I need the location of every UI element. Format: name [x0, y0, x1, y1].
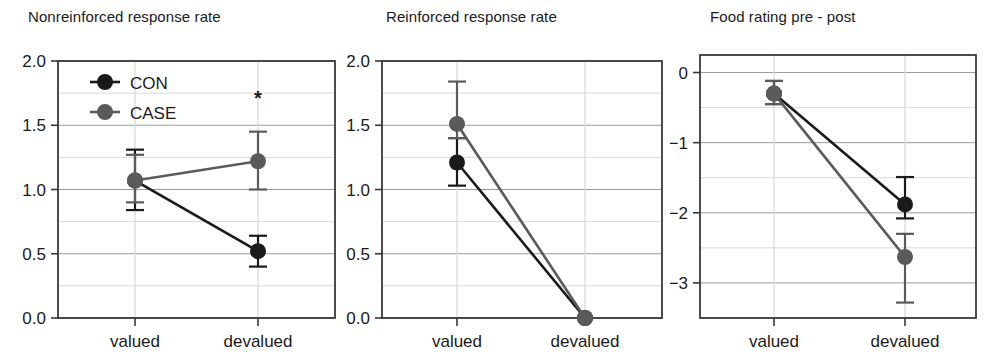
y-axis-tick-label: 1.0 — [22, 181, 46, 200]
y-axis-tick-label: −1 — [670, 134, 688, 153]
figure-container: Nonreinforced response rate 0.00.51.01.5… — [0, 0, 1006, 355]
legend-marker-dot — [97, 74, 113, 90]
y-axis-tick-label: 1.5 — [22, 116, 46, 135]
y-axis-tick-label: 0 — [679, 64, 688, 83]
y-axis-tick-label: 2.0 — [22, 52, 46, 71]
y-axis-tick-label: 2.0 — [346, 52, 370, 71]
y-axis-tick-label: 1.5 — [346, 116, 370, 135]
data-point-case[interactable] — [766, 86, 782, 102]
panel-food-rating-pre-post: Food rating pre - post 0−1−2−3valueddeva… — [670, 0, 1006, 355]
x-axis-category-label: valued — [110, 332, 160, 351]
significance-star: * — [254, 87, 262, 109]
panel-title: Reinforced response rate — [386, 8, 557, 25]
data-point-case[interactable] — [127, 173, 143, 189]
y-axis-tick-label: 0.0 — [346, 309, 370, 328]
data-point-con[interactable] — [897, 196, 913, 212]
legend-label: CASE — [130, 104, 176, 123]
data-point-con[interactable] — [449, 155, 465, 171]
y-axis-tick-label: 1.0 — [346, 181, 370, 200]
y-axis-tick-label: 0.0 — [22, 309, 46, 328]
series-line-case — [135, 161, 258, 180]
series-line-con — [774, 94, 905, 205]
plot-area: 0.00.51.01.52.0valueddevalued*CONCASE — [0, 0, 340, 355]
data-point-case[interactable] — [897, 249, 913, 265]
panel-nonreinforced-response-rate: Nonreinforced response rate 0.00.51.01.5… — [0, 0, 340, 355]
series-line-con — [135, 181, 258, 252]
y-axis-tick-label: 0.5 — [346, 245, 370, 264]
legend-label: CON — [130, 74, 168, 93]
x-axis-category-label: devalued — [870, 332, 939, 351]
data-point-case[interactable] — [577, 310, 593, 326]
legend-marker-dot — [97, 104, 113, 120]
panel-title: Nonreinforced response rate — [28, 8, 221, 25]
panel-reinforced-response-rate: Reinforced response rate 0.00.51.01.52.0… — [340, 0, 670, 355]
data-point-case[interactable] — [449, 116, 465, 132]
y-axis-tick-label: −3 — [670, 274, 688, 293]
x-axis-category-label: valued — [432, 332, 482, 351]
x-axis-category-label: devalued — [223, 332, 292, 351]
plot-area: 0.00.51.01.52.0valueddevalued — [340, 0, 670, 355]
x-axis-category-label: devalued — [550, 332, 619, 351]
data-point-case[interactable] — [250, 153, 266, 169]
y-axis-tick-label: −2 — [670, 204, 688, 223]
series-line-case — [457, 124, 585, 318]
x-axis-category-label: valued — [749, 332, 799, 351]
series-line-con — [457, 163, 585, 318]
panel-title: Food rating pre - post — [710, 8, 856, 25]
series-line-case — [774, 94, 905, 257]
plot-area: 0−1−2−3valueddevalued — [670, 0, 1006, 355]
plot-frame — [700, 55, 976, 318]
data-point-con[interactable] — [250, 243, 266, 259]
y-axis-tick-label: 0.5 — [22, 245, 46, 264]
